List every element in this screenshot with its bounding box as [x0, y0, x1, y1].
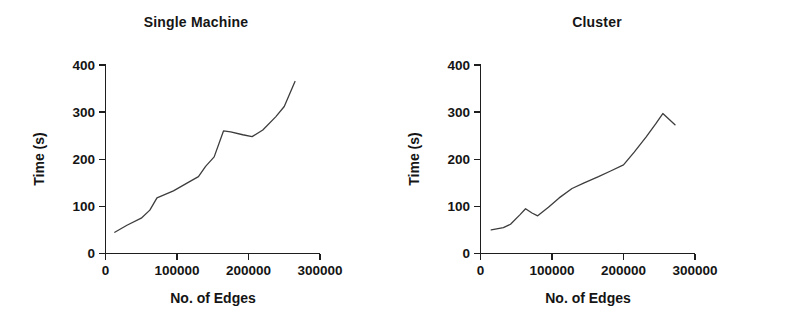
figure-container: Single Machine 0 100 — [0, 0, 785, 324]
y-ticks-cluster — [474, 65, 480, 254]
y-axis-title-cluster: Time (s) — [406, 132, 422, 185]
x-tick-label-0-single-machine: 0 — [102, 263, 110, 278]
plot-svg-single-machine: 0 100 200 300 400 0 100000 200000 300000… — [0, 0, 392, 324]
data-series-cluster — [491, 114, 675, 230]
y-tick-label-100-cluster: 100 — [447, 199, 470, 214]
y-tick-label-300-cluster: 300 — [447, 105, 470, 120]
y-tick-label-400-single-machine: 400 — [72, 58, 95, 73]
y-tick-label-200-cluster: 200 — [447, 152, 470, 167]
x-ticks-cluster — [481, 254, 696, 261]
y-tick-label-0-cluster: 0 — [462, 246, 470, 261]
chart-panel-single-machine: Single Machine 0 100 — [0, 0, 392, 324]
x-tick-label-0-cluster: 0 — [477, 263, 485, 278]
y-tick-label-300-single-machine: 300 — [72, 105, 95, 120]
x-tick-label-300000-cluster: 300000 — [672, 263, 717, 278]
chart-panel-cluster: Cluster 0 100 2 — [392, 0, 784, 324]
plot-svg-cluster: 0 100 200 300 400 0 100000 200000 300000… — [392, 0, 784, 324]
y-tick-label-200-single-machine: 200 — [72, 152, 95, 167]
x-axis-title-cluster: No. of Edges — [545, 290, 631, 306]
x-tick-label-300000-single-machine: 300000 — [297, 263, 342, 278]
y-ticks-single-machine — [99, 65, 105, 254]
y-axis-title-single-machine: Time (s) — [31, 132, 47, 185]
x-tick-label-200000-cluster: 200000 — [601, 263, 646, 278]
x-ticks-single-machine — [106, 254, 321, 261]
y-tick-label-400-cluster: 400 — [447, 58, 470, 73]
x-tick-label-100000-single-machine: 100000 — [154, 263, 199, 278]
y-tick-label-0-single-machine: 0 — [87, 246, 95, 261]
x-axis-title-single-machine: No. of Edges — [170, 290, 256, 306]
data-series-single-machine — [115, 81, 295, 232]
x-tick-label-200000-single-machine: 200000 — [226, 263, 271, 278]
y-tick-label-100-single-machine: 100 — [72, 199, 95, 214]
x-tick-label-100000-cluster: 100000 — [529, 263, 574, 278]
